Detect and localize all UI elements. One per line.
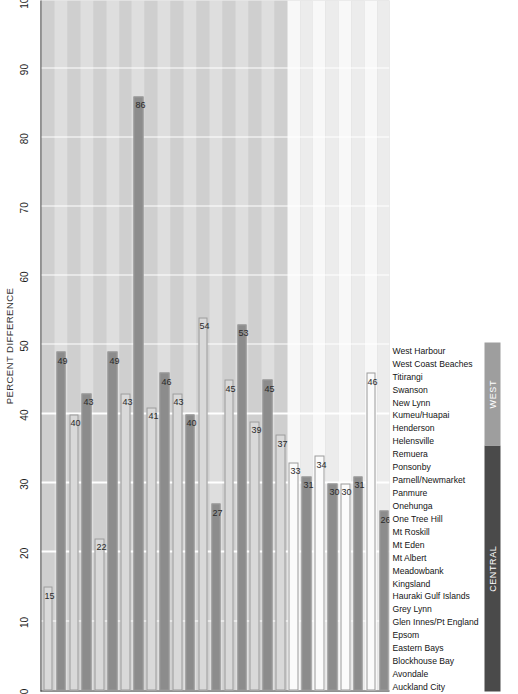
region-label: WEST bbox=[484, 342, 500, 445]
bar-value-label: 46 bbox=[367, 376, 377, 386]
bar bbox=[198, 317, 208, 690]
axis-tick-label: 80 bbox=[18, 133, 29, 144]
bar-value-label: 27 bbox=[212, 507, 222, 517]
bar bbox=[262, 379, 272, 690]
bar bbox=[107, 351, 117, 690]
category-axis-labels: Auckland CityAvondaleBlockhouse BayEaste… bbox=[389, 0, 481, 691]
value-axis-title: PERCENT DIFFERENCE bbox=[0, 0, 18, 691]
category-label: Swanson bbox=[392, 384, 427, 394]
bar bbox=[56, 351, 66, 690]
axis-tick-label: 30 bbox=[18, 478, 29, 489]
bar bbox=[120, 393, 130, 690]
category-label: Henderson bbox=[392, 422, 434, 432]
category-label: Mt Eden bbox=[392, 539, 424, 549]
category-label: Mt Roskill bbox=[392, 526, 429, 536]
category-label: Mt Albert bbox=[392, 552, 426, 562]
category-label: One Tree Hill bbox=[392, 513, 442, 523]
bar bbox=[237, 324, 247, 690]
region-brackets: CENTRALWEST bbox=[484, 0, 504, 691]
bar bbox=[275, 434, 285, 690]
category-label: Remuera bbox=[392, 448, 427, 458]
bar-value-label: 15 bbox=[44, 590, 54, 600]
axis-tick-label: 50 bbox=[18, 340, 29, 351]
axis-tick-label: 60 bbox=[18, 271, 29, 282]
category-label: West Harbour bbox=[392, 345, 445, 355]
bar-value-label: 37 bbox=[277, 438, 287, 448]
bar bbox=[133, 96, 143, 690]
bar bbox=[224, 379, 234, 690]
value-axis-ticks: 0102030405060708090100 bbox=[18, 0, 40, 691]
region-band: CENTRAL bbox=[484, 445, 500, 691]
bar bbox=[366, 372, 376, 690]
category-label: Kingsland bbox=[392, 578, 430, 588]
category-label: Glen Innes/Pt England bbox=[392, 616, 478, 626]
category-label: Kumeu/Huapai bbox=[392, 409, 449, 419]
bar bbox=[353, 476, 363, 690]
category-label: Panmure bbox=[392, 487, 427, 497]
gridline bbox=[41, 343, 389, 344]
axis-tick-label: 70 bbox=[18, 202, 29, 213]
bar bbox=[69, 414, 79, 690]
bar-value-label: 49 bbox=[109, 355, 119, 365]
bar-value-label: 30 bbox=[329, 486, 339, 496]
bar bbox=[172, 393, 182, 690]
bar bbox=[249, 421, 259, 690]
category-label: Grey Lynn bbox=[392, 603, 431, 613]
bar bbox=[288, 462, 298, 690]
axis-tick-label: 10 bbox=[18, 616, 29, 627]
gridline bbox=[41, 67, 389, 68]
bar-value-label: 49 bbox=[57, 355, 67, 365]
bar-value-label: 46 bbox=[161, 376, 171, 386]
bar bbox=[185, 414, 195, 690]
bar-value-label: 45 bbox=[225, 383, 235, 393]
axis-tick-label: 90 bbox=[18, 64, 29, 75]
category-label: Onehunga bbox=[392, 500, 432, 510]
bar-value-label: 45 bbox=[264, 383, 274, 393]
bar bbox=[81, 393, 91, 690]
bar bbox=[301, 476, 311, 690]
category-label: Auckland City bbox=[392, 681, 445, 691]
category-label: Epsom bbox=[392, 629, 419, 639]
bar-value-label: 31 bbox=[354, 479, 364, 489]
axis-tick-label: 20 bbox=[18, 547, 29, 558]
bar-value-label: 33 bbox=[290, 465, 300, 475]
category-label: Hauraki Gulf Islands bbox=[392, 590, 469, 600]
bar-value-label: 43 bbox=[173, 396, 183, 406]
region-label: CENTRAL bbox=[484, 445, 500, 691]
bar bbox=[379, 510, 389, 690]
gridline bbox=[41, 412, 389, 413]
bar bbox=[94, 538, 104, 690]
bar bbox=[340, 483, 350, 690]
bar-value-label: 26 bbox=[380, 514, 389, 524]
gridline bbox=[41, 136, 389, 137]
plot-area: 1549404322494386414643405427455339453733… bbox=[40, 0, 389, 691]
category-label: West Coast Beaches bbox=[392, 358, 472, 368]
bar-value-label: 43 bbox=[83, 396, 93, 406]
axis-tick-label: 0 bbox=[18, 688, 29, 694]
bar bbox=[327, 483, 337, 690]
bar-value-label: 86 bbox=[135, 99, 145, 109]
bar bbox=[314, 455, 324, 690]
bar-value-label: 40 bbox=[186, 417, 196, 427]
bar-value-label: 41 bbox=[148, 410, 158, 420]
category-label: Parnell/Newmarket bbox=[392, 474, 465, 484]
category-label: Titirangi bbox=[392, 371, 422, 381]
bar-value-label: 31 bbox=[303, 479, 313, 489]
bar-value-label: 53 bbox=[238, 327, 248, 337]
category-label: Meadowbank bbox=[392, 565, 443, 575]
category-label: Avondale bbox=[392, 668, 428, 678]
bar bbox=[159, 372, 169, 690]
category-label: New Lynn bbox=[392, 397, 430, 407]
bar bbox=[43, 586, 53, 690]
category-label: Eastern Bays bbox=[392, 642, 443, 652]
bar bbox=[146, 407, 156, 690]
bar-value-label: 34 bbox=[316, 459, 326, 469]
gridline bbox=[41, 205, 389, 206]
gridline bbox=[41, 274, 389, 275]
bar-value-label: 22 bbox=[96, 541, 106, 551]
axis-tick-label: 100 bbox=[18, 0, 29, 8]
bar-value-label: 30 bbox=[341, 486, 351, 496]
category-label: Ponsonby bbox=[392, 461, 430, 471]
